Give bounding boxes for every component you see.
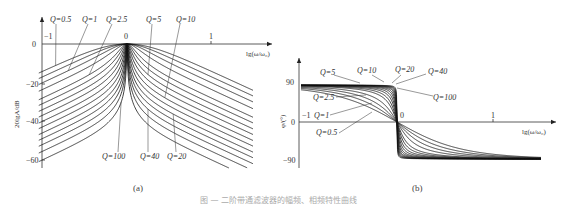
b-xtick-label-1: 1 xyxy=(491,111,495,120)
b-leader-q1 xyxy=(330,103,372,115)
figure-caption: 图 — 二阶带通滤波器的幅频、相频特性曲线 xyxy=(200,195,357,204)
figure: −1 0 1 0 −20 −40 −60 lg(ω/ω₀) 20lgA/dB Q… xyxy=(0,0,569,204)
a-ytick-label-20: −20 xyxy=(26,80,39,89)
b-x-axis-label: lg(ω/ω₀) xyxy=(522,128,546,136)
b-y-axis-label: φ/(°) xyxy=(279,114,287,128)
b-curve-q1.5 xyxy=(301,87,541,159)
b-label-q40: Q=40 xyxy=(428,67,447,76)
b-label-q10: Q=10 xyxy=(357,66,376,75)
a-ytick-label-0: 0 xyxy=(32,40,36,49)
a-label-q10: Q=10 xyxy=(176,15,195,24)
a-ytick-label-40: −40 xyxy=(26,117,39,126)
a-label-q1: Q=1 xyxy=(82,15,97,24)
b-label-q0.5: Q=0.5 xyxy=(316,128,337,137)
b-label-q5: Q=5 xyxy=(320,68,335,77)
a-xtick-label-1: 1 xyxy=(209,32,213,41)
a-curve-q3.5 xyxy=(39,44,253,123)
a-y-axis-label: 20lgA/dB xyxy=(13,100,21,128)
b-label-q1: Q=1 xyxy=(314,111,329,120)
a-label-q100: Q=100 xyxy=(102,152,125,161)
panel-a-magnitude: −1 0 1 0 −20 −40 −60 lg(ω/ω₀) 20lgA/dB Q… xyxy=(13,15,272,193)
b-xtick-label-neg1: −1 xyxy=(302,111,311,120)
b-ytick-label-0: 0 xyxy=(291,118,295,127)
b-leader-q0.5 xyxy=(339,112,372,133)
a-leader-q10 xyxy=(165,24,180,98)
b-caption: (b) xyxy=(412,183,423,193)
a-label-q40: Q=40 xyxy=(140,152,159,161)
a-leader-q5 xyxy=(148,24,152,75)
a-x-axis-label: lg(ω/ω₀) xyxy=(246,50,270,58)
panel-b-phase: −1 0 1 90 0 −90 lg(ω/ω₀) φ/(°) Q=5 Q=10 … xyxy=(279,58,556,193)
a-label-q20: Q=20 xyxy=(167,152,186,161)
b-label-q100: Q=100 xyxy=(433,93,456,102)
b-leader-q100 xyxy=(397,88,433,96)
a-leader-q1 xyxy=(68,24,88,71)
b-leader-q10 xyxy=(372,75,384,82)
a-curve-q20 xyxy=(39,44,253,152)
b-xtick-label-0: 0 xyxy=(400,111,404,120)
a-label-q0.5: Q=0.5 xyxy=(50,15,71,24)
a-ytick-label-60: −60 xyxy=(26,156,39,165)
a-leader-q100 xyxy=(118,102,121,152)
a-curve-q0.7 xyxy=(39,44,253,96)
a-label-q2.5: Q=2.5 xyxy=(106,15,127,24)
a-xtick-label-0: 0 xyxy=(124,32,128,41)
b-label-q20: Q=20 xyxy=(395,65,414,74)
b-ytick-label-neg90: −90 xyxy=(283,156,296,165)
a-caption: (a) xyxy=(133,183,143,193)
a-curves xyxy=(39,44,253,168)
b-leader-q20 xyxy=(392,75,401,83)
b-ytick-label-90: 90 xyxy=(286,78,294,87)
a-xtick-label-neg1: −1 xyxy=(44,32,53,41)
a-curve-q1.5 xyxy=(39,44,253,109)
a-label-q5: Q=5 xyxy=(146,15,161,24)
b-label-q2.5: Q=2.5 xyxy=(313,93,334,102)
b-leader-q5 xyxy=(334,75,360,83)
a-curve-q5 xyxy=(39,44,253,129)
